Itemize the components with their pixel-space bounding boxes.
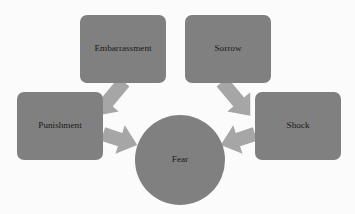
node-label-fear: Fear	[172, 154, 188, 164]
node-label-punishment: Punishment	[38, 120, 82, 130]
node-punishment[interactable]: Punishment	[17, 92, 103, 160]
node-embarrassment[interactable]: Embarrassment	[80, 15, 166, 83]
node-label-shock: Shock	[287, 120, 310, 130]
diagram-svg: Fear Embarrassment Sorrow Punishment Sho…	[0, 0, 355, 214]
node-shock[interactable]: Shock	[255, 92, 341, 160]
node-sorrow[interactable]: Sorrow	[185, 15, 271, 83]
diagram-canvas: Fear Embarrassment Sorrow Punishment Sho…	[0, 0, 355, 214]
node-label-embarrassment: Embarrassment	[94, 43, 152, 53]
node-label-sorrow: Sorrow	[214, 43, 241, 53]
node-fear[interactable]: Fear	[135, 115, 225, 205]
arrow-punishment-to-fear	[98, 120, 142, 160]
